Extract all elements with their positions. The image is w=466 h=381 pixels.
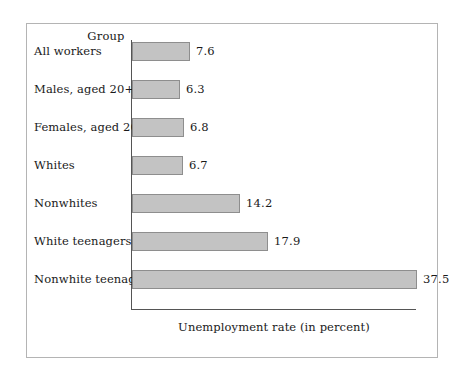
bar-value-label: 6.7 <box>189 156 208 175</box>
bar-row: White teenagers17.9 <box>27 232 439 251</box>
bar-value-label: 37.5 <box>423 270 449 289</box>
x-axis-line <box>131 309 416 310</box>
bar <box>132 80 180 99</box>
bar-category-label: Females, aged 20+ <box>34 118 148 137</box>
bar-row: Females, aged 20+6.8 <box>27 118 439 137</box>
bar-value-label: 6.8 <box>190 118 209 137</box>
bar <box>132 194 240 213</box>
bar-category-label: All workers <box>34 42 102 61</box>
bar <box>132 232 268 251</box>
bar-chart-plot-area: Group All workers7.6Males, aged 20+6.3Fe… <box>27 24 439 359</box>
group-column-header: Group <box>61 29 151 43</box>
bar-category-label: White teenagers <box>34 232 132 251</box>
bar <box>132 156 183 175</box>
bar <box>132 270 417 289</box>
bar-value-label: 17.9 <box>274 232 300 251</box>
figure-frame: Group All workers7.6Males, aged 20+6.3Fe… <box>26 23 438 358</box>
bar-row: Whites6.7 <box>27 156 439 175</box>
bar-value-label: 14.2 <box>246 194 272 213</box>
bar-category-label: Males, aged 20+ <box>34 80 134 99</box>
bar-value-label: 6.3 <box>186 80 205 99</box>
bar-row: Nonwhites14.2 <box>27 194 439 213</box>
bar-category-label: Nonwhites <box>34 194 98 213</box>
bar <box>132 42 190 61</box>
x-axis-title: Unemployment rate (in percent) <box>131 320 417 334</box>
bar-row: All workers7.6 <box>27 42 439 61</box>
bar-row: Males, aged 20+6.3 <box>27 80 439 99</box>
bar <box>132 118 184 137</box>
bar-row: Nonwhite teenagers37.5 <box>27 270 439 289</box>
bar-category-label: Whites <box>34 156 75 175</box>
bar-value-label: 7.6 <box>196 42 215 61</box>
